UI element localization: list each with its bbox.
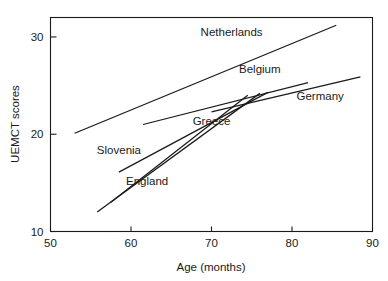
x-tick-label-80: 80 <box>286 237 299 249</box>
series-label-england: England <box>126 175 168 187</box>
series-label-greece: Greece <box>193 115 231 127</box>
series-label-belgium: Belgium <box>239 63 281 75</box>
x-tick-label-50: 50 <box>44 237 57 249</box>
chart-container: 5060708090102030 NetherlandsBelgiumGerma… <box>0 0 388 281</box>
series-label-slovenia: Slovenia <box>97 144 142 156</box>
x-tick-label-70: 70 <box>205 237 218 249</box>
series-labels-layer: NetherlandsBelgiumGermanyGreeceSloveniaE… <box>97 26 344 187</box>
y-tick-label-10: 10 <box>31 226 44 238</box>
x-tick-label-90: 90 <box>366 237 379 249</box>
y-tick-label-20: 20 <box>31 128 44 140</box>
line-chart: 5060708090102030 NetherlandsBelgiumGerma… <box>0 0 388 281</box>
series-label-netherlands: Netherlands <box>201 26 263 38</box>
y-tick-label-30: 30 <box>31 31 44 43</box>
y-axis-title: UEMCT scores <box>9 85 21 163</box>
x-axis-title: Age (months) <box>176 261 245 273</box>
series-label-germany: Germany <box>297 90 345 102</box>
ticks-layer: 5060708090102030 <box>31 31 379 249</box>
x-tick-label-60: 60 <box>125 237 138 249</box>
